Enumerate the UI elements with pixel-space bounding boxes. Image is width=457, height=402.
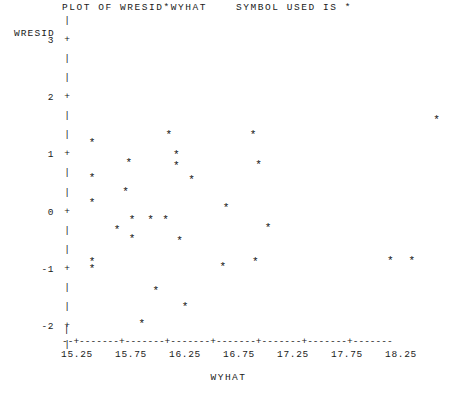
data-point: * (121, 187, 130, 198)
data-point: * (88, 138, 97, 149)
data-point: * (172, 161, 181, 172)
data-point: * (264, 223, 273, 234)
data-point: * (128, 234, 137, 245)
data-point: * (175, 236, 184, 247)
data-point: * (128, 215, 137, 226)
data-point: * (187, 175, 196, 186)
data-point: * (251, 257, 260, 268)
data-point: * (249, 130, 258, 141)
data-point: * (386, 256, 395, 267)
data-point: * (88, 264, 97, 275)
data-point: * (124, 158, 133, 169)
data-point: * (222, 203, 231, 214)
y-axis-segment: | (62, 325, 72, 335)
data-point: * (137, 319, 146, 330)
sas-plot-output: PLOT OF WRESID*WYHAT SYMBOL USED IS * WR… (0, 0, 457, 402)
data-point: * (88, 173, 97, 184)
data-points-layer: ***************************** (0, 0, 457, 402)
data-point: * (218, 262, 227, 273)
data-point: * (407, 256, 416, 267)
data-point: * (181, 302, 190, 313)
data-point: * (151, 286, 160, 297)
data-point: * (254, 160, 263, 171)
data-point: * (432, 115, 441, 126)
data-point: * (161, 215, 170, 226)
data-point: * (88, 198, 97, 209)
data-point: * (146, 215, 155, 226)
data-point: * (112, 225, 121, 236)
data-point: * (172, 150, 181, 161)
data-point: * (164, 130, 173, 141)
